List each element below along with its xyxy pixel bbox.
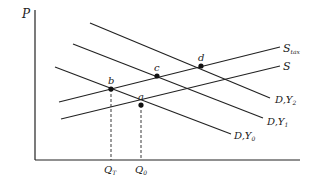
demand-y2-label: D,Y2 — [274, 94, 296, 106]
point-c-label: c — [154, 62, 160, 73]
q0-label: Q0 — [135, 164, 147, 176]
point-a-label: a — [138, 91, 144, 102]
demand-y0-label: D,Y0 — [233, 130, 255, 142]
point-c — [154, 73, 159, 78]
point-a — [138, 102, 143, 107]
demand-y1-label: D,Y1 — [266, 116, 288, 128]
qt-label: QT — [104, 164, 117, 176]
point-b — [108, 86, 113, 91]
y-axis-label: P — [21, 7, 31, 21]
supply-label: S — [283, 60, 291, 73]
point-b-label: b — [108, 75, 114, 86]
supply-demand-diagram: P b a c d Stax S D,Y2 D,Y1 D,Y0 QT Q0 — [0, 0, 317, 182]
point-d-label: d — [198, 52, 204, 63]
point-d — [198, 63, 203, 68]
supply-tax-label: Stax — [283, 42, 301, 55]
